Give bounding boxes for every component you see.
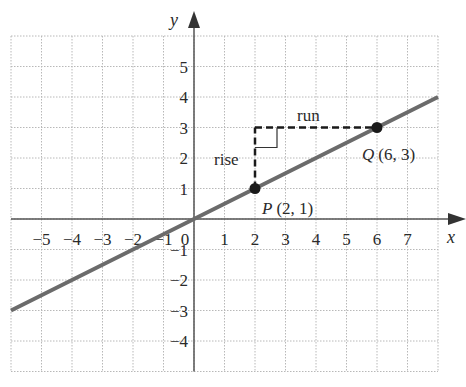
- coordinate-plane: −5−4−3−2−10123456754321−1−2−3−4 y x run …: [0, 0, 466, 387]
- y-axis-label: y: [168, 10, 178, 30]
- y-tick-label: 1: [180, 180, 189, 199]
- x-tick-label: −3: [93, 230, 111, 249]
- x-tick-label: 7: [403, 230, 412, 249]
- point-q-name: Q: [362, 145, 374, 164]
- right-angle-icon: [255, 128, 277, 148]
- y-tick-label: −1: [170, 241, 188, 260]
- y-tick-label: 3: [180, 119, 189, 138]
- x-tick-label: −5: [32, 230, 50, 249]
- x-tick-label: 6: [373, 230, 382, 249]
- x-axis-label: x: [446, 227, 455, 247]
- y-tick-label: 5: [180, 58, 189, 77]
- x-tick-label: 4: [312, 230, 321, 249]
- x-tick-label: 1: [220, 230, 229, 249]
- point-p-marker: [250, 183, 261, 194]
- y-tick-label: −4: [170, 332, 189, 351]
- y-tick-label: −3: [170, 302, 188, 321]
- x-tick-label: −4: [63, 230, 82, 249]
- point-p-name: P: [261, 199, 272, 218]
- point-q-marker: [372, 122, 383, 133]
- rise-label: rise: [214, 150, 239, 169]
- point-p-coords: (2, 1): [276, 199, 313, 218]
- run-label: run: [297, 106, 320, 125]
- y-tick-label: 4: [180, 88, 189, 107]
- point-q-coords: (6, 3): [378, 145, 415, 164]
- x-tick-label: 5: [342, 230, 351, 249]
- point-p-label: P(2, 1): [261, 199, 313, 218]
- point-q-label: Q(6, 3): [362, 145, 415, 164]
- axes: [11, 11, 466, 372]
- y-tick-label: 2: [180, 149, 189, 168]
- x-tick-label: 2: [251, 230, 260, 249]
- y-tick-label: −2: [170, 271, 188, 290]
- x-tick-label: 3: [281, 230, 290, 249]
- x-axis-arrow-icon: [448, 213, 466, 225]
- y-axis-arrow-icon: [188, 11, 200, 28]
